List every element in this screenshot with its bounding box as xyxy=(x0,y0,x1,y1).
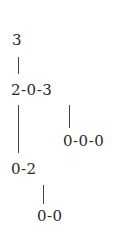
node-0-2: 0-2 xyxy=(11,162,37,177)
node-2-0-3: 2-0-3 xyxy=(11,83,52,98)
edge-2-0-3-to-0-0-0 xyxy=(69,105,70,128)
edge-0-2-to-0-0 xyxy=(43,185,44,204)
edge-2-0-3-to-0-2 xyxy=(18,105,19,153)
node-0-0: 0-0 xyxy=(37,209,63,224)
node-0-0-0: 0-0-0 xyxy=(63,134,104,149)
edge-3-to-2-0-3 xyxy=(18,57,19,74)
node-3: 3 xyxy=(12,33,22,48)
